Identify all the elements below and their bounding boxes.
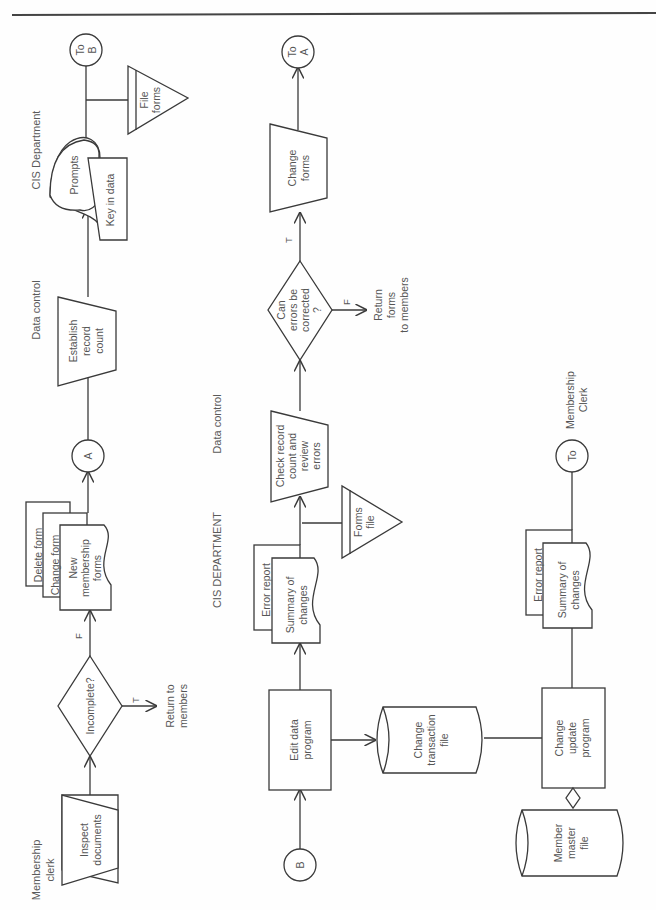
svg-text:update: update bbox=[566, 722, 578, 754]
svg-text:Check record: Check record bbox=[274, 425, 286, 488]
svg-text:Member: Member bbox=[552, 823, 564, 862]
svg-text:record: record bbox=[80, 326, 92, 356]
svg-text:Membership: Membership bbox=[564, 371, 576, 429]
svg-text:membership: membership bbox=[79, 539, 91, 597]
lane-label: Data control bbox=[211, 394, 223, 453]
node-inspect-documents[interactable]: Inspect documents bbox=[62, 795, 118, 885]
svg-text:master: master bbox=[565, 826, 577, 859]
node-key-in-data[interactable]: Key in data bbox=[88, 158, 127, 240]
svg-text:Change form: Change form bbox=[49, 534, 61, 595]
svg-text:members: members bbox=[177, 684, 189, 728]
svg-text:to members: to members bbox=[398, 277, 410, 332]
node-establish-record-count[interactable]: Establish record count bbox=[58, 297, 116, 386]
flowchart-svg: Membership clerk Data control CIS Depart… bbox=[0, 0, 656, 910]
svg-text:Delete form: Delete form bbox=[32, 528, 44, 583]
connector-to-b[interactable]: To B bbox=[70, 34, 102, 66]
svg-text:count: count bbox=[93, 328, 105, 354]
lane-data-control-top: Data control bbox=[30, 280, 42, 339]
edge-label-false: F bbox=[73, 633, 84, 639]
svg-text:A: A bbox=[298, 48, 310, 55]
return-to-members-label: Return to members bbox=[164, 684, 189, 728]
svg-text:forms: forms bbox=[150, 87, 162, 113]
lane-label: Data control bbox=[30, 280, 42, 339]
svg-text:To: To bbox=[566, 450, 578, 461]
svg-text:Change: Change bbox=[412, 721, 424, 758]
node-check-record-count[interactable]: Check record count and review errors bbox=[271, 411, 328, 502]
lane-cis-department-bottom: CIS DEPARTMENT bbox=[211, 512, 223, 608]
svg-text:Key in data: Key in data bbox=[104, 174, 116, 227]
svg-text:Edit data: Edit data bbox=[288, 719, 300, 761]
node-edit-data-program[interactable]: Edit data program bbox=[269, 690, 331, 790]
svg-text:changes: changes bbox=[569, 570, 581, 610]
svg-text:B: B bbox=[294, 861, 306, 868]
flowchart-canvas: Membership clerk Data control CIS Depart… bbox=[0, 0, 656, 910]
bidirectional-link-icon bbox=[566, 788, 580, 808]
lane-label: Membership bbox=[30, 840, 42, 901]
lane-cis-department-top: CIS Department bbox=[30, 111, 42, 190]
page-rule bbox=[12, 13, 656, 15]
node-member-master-file[interactable]: Member master file bbox=[516, 810, 623, 876]
svg-text:file: file bbox=[578, 836, 590, 850]
connector-b[interactable]: B bbox=[284, 849, 316, 881]
edge-label-true: T bbox=[130, 697, 141, 703]
node-summary-error-stack-2[interactable]: Error report Summary of changes bbox=[526, 530, 592, 628]
svg-text:New: New bbox=[67, 557, 79, 578]
svg-text:errors: errors bbox=[310, 442, 322, 469]
svg-text:A: A bbox=[82, 452, 94, 459]
svg-text:Can: Can bbox=[275, 300, 287, 319]
svg-text:Inspect: Inspect bbox=[78, 823, 90, 857]
svg-text:File: File bbox=[138, 91, 150, 108]
svg-text:Establish: Establish bbox=[67, 320, 79, 363]
svg-text:program: program bbox=[301, 720, 313, 759]
svg-text:Error report: Error report bbox=[260, 563, 272, 617]
svg-text:forms: forms bbox=[385, 292, 397, 318]
svg-text:corrected: corrected bbox=[299, 288, 311, 332]
svg-text:errors be: errors be bbox=[287, 289, 299, 331]
lane-label: CIS Department bbox=[30, 111, 42, 190]
svg-text:transaction: transaction bbox=[425, 714, 437, 766]
svg-text:To: To bbox=[74, 44, 86, 55]
lane-data-control-bottom: Data control bbox=[211, 394, 223, 453]
svg-text:Clerk: Clerk bbox=[577, 387, 589, 412]
connector-a[interactable]: A bbox=[72, 440, 104, 472]
svg-text:forms: forms bbox=[299, 155, 311, 181]
svg-text:Return to: Return to bbox=[164, 684, 176, 727]
connector-to-membership-clerk[interactable]: To bbox=[556, 440, 588, 472]
svg-text:file: file bbox=[438, 733, 450, 747]
connector-to-a[interactable]: To A bbox=[282, 36, 314, 68]
svg-text:Return: Return bbox=[372, 289, 384, 321]
membership-clerk-destination-label: Membership Clerk bbox=[564, 371, 589, 429]
svg-text:documents: documents bbox=[91, 814, 103, 865]
svg-text:Change: Change bbox=[286, 149, 298, 186]
node-summary-error-stack-1[interactable]: Error report Summary of changes bbox=[254, 545, 320, 643]
node-change-update-program[interactable]: Change update program bbox=[542, 688, 605, 788]
node-change-forms[interactable]: Change forms bbox=[270, 124, 327, 212]
node-can-errors-be-corrected[interactable]: Can errors be corrected ? bbox=[268, 261, 332, 360]
svg-text:Incomplete?: Incomplete? bbox=[84, 677, 96, 734]
node-file-forms[interactable]: File forms bbox=[128, 66, 188, 134]
return-forms-label: Return forms to members bbox=[372, 277, 410, 332]
edge-label-true: T bbox=[283, 237, 294, 243]
svg-text:review: review bbox=[298, 440, 310, 471]
svg-text:Forms: Forms bbox=[352, 507, 364, 537]
edge-label-false: F bbox=[341, 299, 352, 305]
lane-membership-clerk: Membership clerk bbox=[30, 840, 56, 901]
svg-text:Error report: Error report bbox=[532, 548, 544, 602]
svg-text:B: B bbox=[86, 46, 98, 53]
svg-text:forms: forms bbox=[91, 555, 103, 581]
node-forms-stack[interactable]: Delete form Change form New membership f… bbox=[26, 502, 111, 610]
svg-text:Prompts: Prompts bbox=[68, 155, 80, 194]
svg-text:changes: changes bbox=[297, 585, 309, 625]
svg-text:To: To bbox=[286, 46, 298, 57]
svg-text:file: file bbox=[364, 515, 376, 529]
svg-text:count and: count and bbox=[286, 433, 298, 479]
node-change-transaction-file[interactable]: Change transaction file bbox=[377, 707, 482, 773]
svg-text:?: ? bbox=[311, 307, 323, 313]
lane-label: CIS DEPARTMENT bbox=[211, 512, 223, 608]
node-forms-file[interactable]: Forms file bbox=[342, 486, 402, 558]
node-incomplete-decision[interactable]: Incomplete? bbox=[58, 656, 122, 756]
svg-text:Summary of: Summary of bbox=[284, 577, 296, 634]
svg-text:Summary of: Summary of bbox=[556, 562, 568, 619]
svg-text:Change: Change bbox=[553, 719, 565, 756]
svg-text:program: program bbox=[579, 718, 591, 757]
